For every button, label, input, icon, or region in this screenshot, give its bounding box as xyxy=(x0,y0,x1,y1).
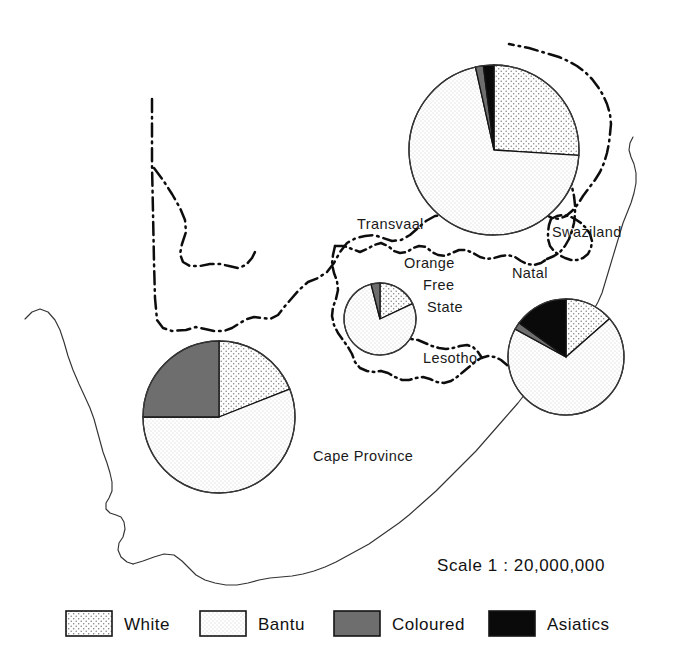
wedge-coloured xyxy=(143,341,219,417)
legend-label-asiatics: Asiatics xyxy=(547,615,610,634)
pie-orange-free-state xyxy=(344,283,416,355)
map-label-orange: Orange xyxy=(404,255,455,271)
population-pie-map: TransvaalSwazilandOrangeFreeStateNatalLe… xyxy=(0,0,673,645)
map-label-cape-province: Cape Province xyxy=(313,448,413,464)
pie-natal xyxy=(508,299,624,415)
legend-item-bantu[interactable]: Bantu xyxy=(200,611,305,636)
legend-item-asiatics[interactable]: Asiatics xyxy=(489,611,610,636)
map-label-natal: Natal xyxy=(512,265,548,281)
legend-swatch-white xyxy=(66,611,112,636)
legend: WhiteBantuColouredAsiatics xyxy=(66,611,610,636)
pie-cape-province xyxy=(143,341,295,493)
legend-label-coloured: Coloured xyxy=(392,615,465,634)
map-label-transvaal: Transvaal xyxy=(357,216,424,232)
legend-item-coloured[interactable]: Coloured xyxy=(334,611,465,636)
scale-label: Scale 1 : 20,000,000 xyxy=(437,556,605,575)
legend-item-white[interactable]: White xyxy=(66,611,170,636)
legend-swatch-asiatics xyxy=(489,611,535,636)
map-label-swaziland: Swaziland xyxy=(552,224,622,240)
wedge-white xyxy=(494,65,579,155)
pie-transvaal xyxy=(409,65,579,235)
map-label-free: Free xyxy=(423,277,454,293)
legend-swatch-bantu xyxy=(200,611,246,636)
map-label-lesotho: Lesotho xyxy=(423,350,477,366)
namibia-spur-border xyxy=(154,168,256,268)
map-label-state: State xyxy=(427,299,463,315)
pie-charts-group xyxy=(143,65,624,493)
legend-label-white: White xyxy=(124,615,170,634)
west-coast xyxy=(25,309,133,564)
legend-swatch-coloured xyxy=(334,611,380,636)
legend-label-bantu: Bantu xyxy=(258,615,305,634)
